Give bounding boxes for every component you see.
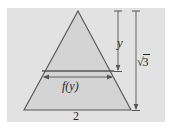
label-cross-section-fy: f(y)	[62, 80, 79, 92]
radicand-value: 3	[143, 54, 150, 69]
radical-group: √3	[137, 56, 150, 68]
label-height-sqrt3: √3	[137, 56, 150, 68]
label-height-y: y	[117, 36, 123, 49]
figure-container: y √3 f(y) 2	[0, 0, 171, 137]
label-base-length: 2	[73, 110, 79, 122]
